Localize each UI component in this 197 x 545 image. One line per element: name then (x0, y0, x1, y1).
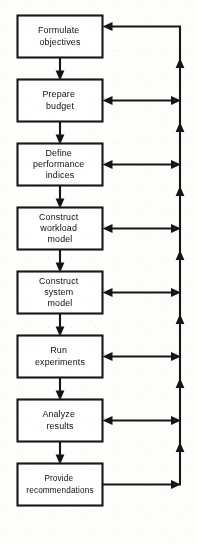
tap-arrowhead-into-prepare-budget (103, 96, 113, 105)
bus-up-arrowhead-4 (176, 250, 185, 260)
bidirectional-tap-group (103, 96, 182, 425)
node-box-provide-recommendations[interactable] (18, 464, 103, 506)
tap-arrowhead-into-define-performance-indices (103, 160, 113, 169)
bus-up-arrowhead-1 (176, 58, 185, 68)
tap-arrowhead-into-analyze-results (103, 416, 113, 425)
tap-arrowhead-into-construct-workload-model (103, 224, 113, 233)
flowchart-canvas: Formulate objectives Prepare budget Defi… (0, 0, 197, 545)
flowchart-diagram: Formulate objectives Prepare budget Defi… (0, 0, 197, 545)
node-label-analyze-results: Analyze results (42, 409, 77, 431)
bus-up-arrowhead-3 (176, 186, 185, 196)
feedback-arrowhead-into-n1 (103, 22, 113, 31)
bus-up-arrowhead-7 (176, 442, 185, 452)
node-label-formulate-objectives: Formulate objectives (38, 25, 82, 47)
tap-arrowhead-into-construct-system-model (103, 288, 113, 297)
tap-arrowhead-into-run-experiments (103, 352, 113, 361)
bus-up-arrowhead-2 (176, 122, 185, 132)
bus-up-arrowhead-6 (176, 378, 185, 388)
bus-up-arrowhead-5 (176, 314, 185, 324)
node-label-prepare-budget: Prepare budget (42, 89, 77, 111)
